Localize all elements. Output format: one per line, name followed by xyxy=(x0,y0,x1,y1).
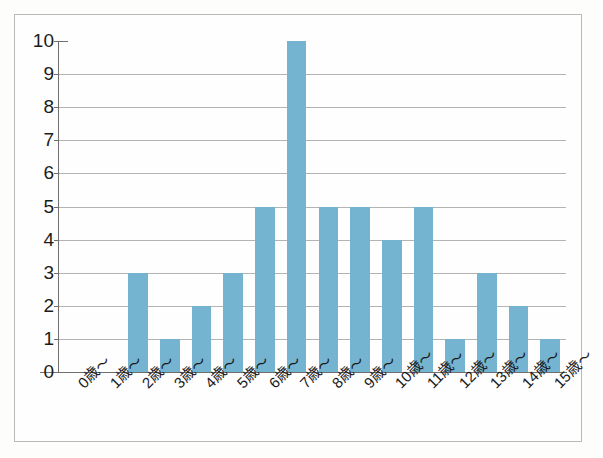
y-tick-label-8: 8 xyxy=(14,97,54,116)
bar xyxy=(319,207,339,373)
plot-area xyxy=(59,41,566,372)
bar xyxy=(255,207,275,373)
y-tick-label-2: 2 xyxy=(14,296,54,315)
y-tick-label-10: 10 xyxy=(14,31,54,50)
bar xyxy=(382,240,402,372)
chart-figure: 109876543210 0歳～1歳～2歳～3歳～4歳～5歳～6歳～7歳～8歳～… xyxy=(0,0,603,458)
y-tick-label-9: 9 xyxy=(14,64,54,83)
y-tick-label-7: 7 xyxy=(14,130,54,149)
x-axis-tick-labels: 0歳～1歳～2歳～3歳～4歳～5歳～6歳～7歳～8歳～9歳～10歳～11歳～12… xyxy=(59,374,566,444)
y-axis-tick-labels: 109876543210 xyxy=(8,0,54,458)
bar xyxy=(350,207,370,373)
y-tick-label-6: 6 xyxy=(14,163,54,182)
y-tick-mark-0 xyxy=(54,372,59,373)
y-tick-label-4: 4 xyxy=(14,230,54,249)
y-tick-label-3: 3 xyxy=(14,263,54,282)
bar xyxy=(287,41,307,372)
y-tick-label-0: 0 xyxy=(14,362,54,381)
y-tick-label-5: 5 xyxy=(14,197,54,216)
y-tick-label-1: 1 xyxy=(14,329,54,348)
